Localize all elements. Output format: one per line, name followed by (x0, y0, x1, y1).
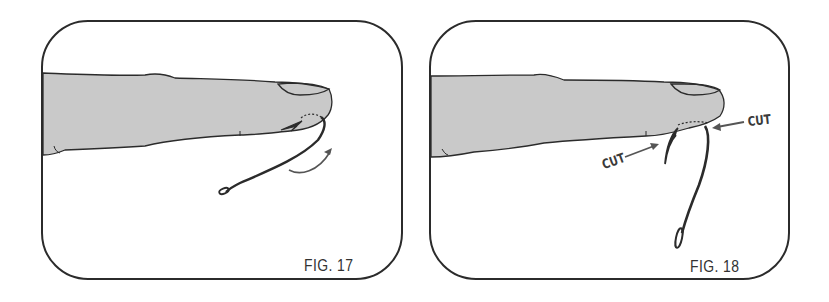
figure-label: FIG. 17 (304, 256, 353, 276)
figure-18-panel: CUT CUT FIG. 18 (414, 0, 829, 302)
panel-frame (42, 21, 402, 279)
figure-label: FIG. 18 (690, 257, 739, 277)
cut-label-right: CUT (747, 112, 772, 129)
figure-17-panel: FIG. 17 (0, 0, 415, 302)
